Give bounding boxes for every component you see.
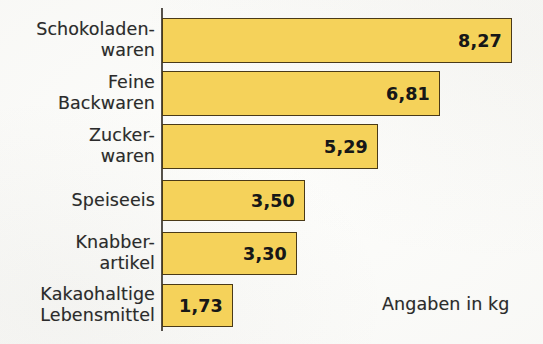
bar-row: Schokoladen- waren 8,27 [0,18,543,63]
bar-value-label: 3,30 [243,233,287,274]
bar-segment: 6,81 [162,71,440,116]
bar-value-label: 3,50 [251,181,295,220]
bar-value-label: 5,29 [324,125,368,168]
plot-area: Schokoladen- waren 8,27 Feine Backwaren … [0,0,543,344]
bar-segment: 3,50 [162,180,305,221]
bar-row: Zucker- waren 5,29 [0,124,543,169]
bar-value-label: 8,27 [458,19,502,62]
bar-category-label: Knabber- artikel [76,232,155,274]
bar-segment: 3,30 [162,232,297,275]
bar-category-label: Schokoladen- waren [36,19,155,61]
bar-row: Feine Backwaren 6,81 [0,71,543,116]
bar-category-label: Zucker- waren [89,125,155,167]
bar-segment: 5,29 [162,124,378,169]
bar-category-label: Feine Backwaren [58,72,155,114]
bar-category-label: Speiseeis [72,190,155,211]
bar-value-label: 1,73 [179,285,223,326]
bar-value-label: 6,81 [386,72,430,115]
bar-chart: Schokoladen- waren 8,27 Feine Backwaren … [0,0,543,344]
unit-note: Angaben in kg [382,294,509,314]
bar-category-label: Kakaohaltige Lebensmittel [40,284,155,326]
bar-row: Knabber- artikel 3,30 [0,232,543,275]
bar-segment: 1,73 [162,284,233,327]
bar-segment: 8,27 [162,18,512,63]
bar-row: Speiseeis 3,50 [0,180,543,221]
